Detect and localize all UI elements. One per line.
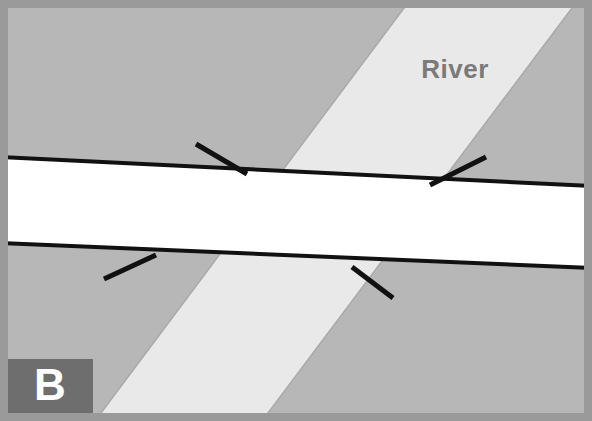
panel-label: B [34, 360, 66, 409]
river-label: River [421, 54, 489, 84]
figure-panel-b: River B [0, 0, 592, 421]
map-diagram: River B [0, 0, 592, 421]
